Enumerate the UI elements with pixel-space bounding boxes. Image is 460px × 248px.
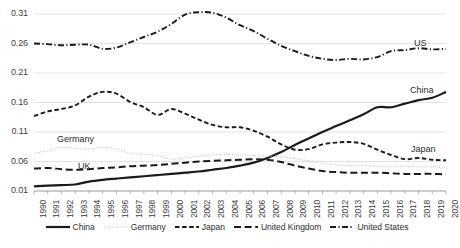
series-label-japan: Japan xyxy=(411,144,436,154)
x-axis-tick-label: 2007 xyxy=(271,200,281,218)
series-line-united-states xyxy=(34,12,446,60)
x-axis-tick-label: 2013 xyxy=(353,200,363,218)
x-axis-tick-label: 2005 xyxy=(244,200,254,218)
x-axis-tick-label: 1998 xyxy=(147,200,157,218)
x-axis-tick-label: 1990 xyxy=(38,200,48,218)
legend-swatch-united-kingdom xyxy=(234,222,258,232)
legend-swatch-china xyxy=(46,222,70,232)
x-axis-tick-label: 2006 xyxy=(257,200,267,218)
legend-entry-united-states[interactable]: United States xyxy=(330,222,408,232)
x-axis-tick-label: 1996 xyxy=(120,200,130,218)
x-axis-tick-label: 2009 xyxy=(298,200,308,218)
x-axis-tick-label: 2017 xyxy=(408,200,418,218)
x-axis-tick-label: 2011 xyxy=(326,201,336,218)
y-axis-tick-label: 0.11 xyxy=(2,126,28,136)
legend-entry-china[interactable]: China xyxy=(46,222,95,232)
series-label-united-kingdom: UK xyxy=(78,161,91,171)
x-axis-tick-label: 2016 xyxy=(395,200,405,218)
chart-legend: ChinaGermanyJapanUnited KingdomUnited St… xyxy=(0,222,454,232)
legend-entry-germany[interactable]: Germany xyxy=(104,222,166,232)
x-axis-tick-label: 1995 xyxy=(106,200,116,218)
x-axis-tick-label: 2008 xyxy=(285,200,295,218)
series-line-japan xyxy=(34,92,446,161)
x-axis-tick-label: 2004 xyxy=(230,200,240,218)
x-axis-tick-label: 2018 xyxy=(422,200,432,218)
x-axis-tick-label: 2000 xyxy=(175,200,185,218)
x-axis-tick-label: 2020 xyxy=(450,200,460,218)
legend-swatch-japan xyxy=(175,222,199,232)
legend-entry-japan[interactable]: Japan xyxy=(175,222,225,232)
y-axis-tick-label: 0.16 xyxy=(2,97,28,107)
series-lines xyxy=(34,12,446,186)
x-axis-tick-label: 2012 xyxy=(340,200,350,218)
x-axis-tick-label: 1999 xyxy=(161,200,171,218)
series-label-germany: Germany xyxy=(57,134,94,144)
series-line-germany xyxy=(34,147,446,167)
axis-lines xyxy=(34,191,446,194)
y-axis-tick-label: 0.06 xyxy=(2,156,28,166)
x-axis-tick-label: 2014 xyxy=(367,200,377,218)
gridlines xyxy=(34,14,446,191)
legend-label: China xyxy=(73,222,95,232)
y-axis-tick-label: 0.26 xyxy=(2,38,28,48)
x-axis-tick-label: 2019 xyxy=(436,200,446,218)
x-axis-tick-label: 2015 xyxy=(381,200,391,218)
legend-swatch-germany xyxy=(104,222,128,232)
x-axis-tick-label: 1992 xyxy=(65,200,75,218)
x-axis-tick-label: 2010 xyxy=(312,200,322,218)
legend-entry-united-kingdom[interactable]: United Kingdom xyxy=(234,222,321,232)
legend-label: United Kingdom xyxy=(261,222,321,232)
y-axis-tick-label: 0.01 xyxy=(2,185,28,195)
legend-label: Japan xyxy=(202,222,225,232)
legend-swatch-united-states xyxy=(330,222,354,232)
x-axis-tick-label: 2002 xyxy=(202,200,212,218)
x-axis-tick-label: 1997 xyxy=(134,200,144,218)
x-axis-tick-label: 1993 xyxy=(79,200,89,218)
legend-label: Germany xyxy=(131,222,166,232)
y-axis-tick-label: 0.21 xyxy=(2,67,28,77)
x-axis-tick-label: 2003 xyxy=(216,200,226,218)
series-label-united-states: US xyxy=(414,38,427,48)
legend-label: United States xyxy=(357,222,408,232)
x-axis-tick-label: 1994 xyxy=(92,200,102,218)
x-axis-tick-label: 2001 xyxy=(189,200,199,218)
y-axis-tick-label: 0.31 xyxy=(2,8,28,18)
series-label-china: China xyxy=(410,85,434,95)
x-axis-tick-label: 1991 xyxy=(51,200,61,218)
